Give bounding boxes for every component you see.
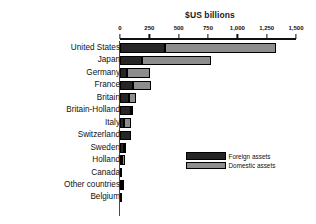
chart-row: Italy xyxy=(0,117,316,129)
category-label: France xyxy=(95,80,120,90)
legend-swatch xyxy=(186,152,226,160)
chart-row: France xyxy=(0,79,316,91)
bar-segment-domestic xyxy=(133,81,151,91)
x-tick-mark xyxy=(266,34,267,39)
x-tick-label: 250 xyxy=(144,25,154,31)
x-tick-mark xyxy=(149,34,150,39)
chart-row: Switzerland xyxy=(0,129,316,141)
legend-label: Foreign assets xyxy=(229,153,271,160)
bar-chart: $US billions 02505007501,0001,2501,500 U… xyxy=(0,0,316,224)
bar-segment-foreign xyxy=(120,131,131,141)
bar-segment-foreign xyxy=(120,106,131,116)
category-label: Canada xyxy=(91,168,120,178)
bar-segment-domestic xyxy=(142,56,211,66)
category-label: Switzerland xyxy=(78,130,120,140)
x-tick-mark xyxy=(295,34,296,39)
stacked-bar xyxy=(120,81,151,91)
stacked-bar xyxy=(120,93,136,103)
category-label: United States xyxy=(71,43,120,53)
category-label: Italy xyxy=(105,118,120,128)
chart-row: United States xyxy=(0,42,316,54)
stacked-bar xyxy=(120,106,133,116)
bar-segment-domestic xyxy=(122,180,124,190)
category-label: Belgium xyxy=(90,192,120,202)
x-tick-label: 750 xyxy=(203,25,213,31)
legend-label: Domestic assets xyxy=(229,162,276,169)
category-label: Japan xyxy=(98,55,120,65)
chart-row: Germany xyxy=(0,67,316,79)
chart-row: Japan xyxy=(0,54,316,66)
x-tick-label: 0 xyxy=(118,25,121,31)
legend-swatch xyxy=(186,162,226,170)
bar-segment-domestic xyxy=(122,155,124,165)
bar-segment-foreign xyxy=(120,81,133,91)
bar-segment-foreign xyxy=(120,43,165,53)
category-label: Holland xyxy=(92,155,120,165)
bar-segment-domestic xyxy=(129,93,135,103)
x-tick-label: 1,250 xyxy=(259,25,274,31)
category-label: Britain xyxy=(97,93,120,103)
x-axis-title: $US billions xyxy=(120,10,300,20)
bar-segment-foreign xyxy=(120,68,127,78)
bar-segment-foreign xyxy=(120,168,122,178)
x-tick-mark xyxy=(237,34,238,39)
bar-segment-foreign xyxy=(120,93,129,103)
bar-segment-foreign xyxy=(120,56,142,66)
x-tick-mark xyxy=(207,34,208,39)
stacked-bar xyxy=(120,143,126,153)
stacked-bar xyxy=(120,43,276,53)
category-label: Other countries xyxy=(64,180,120,190)
category-label: Sweden xyxy=(90,143,120,153)
x-tick-label: 1,000 xyxy=(230,25,245,31)
legend-item: Foreign assets xyxy=(186,152,284,160)
x-tick-mark xyxy=(178,34,179,39)
stacked-bar xyxy=(120,193,122,203)
bar-segment-foreign xyxy=(120,193,122,203)
bar-segment-domestic xyxy=(124,143,126,153)
bar-segment-domestic xyxy=(165,43,276,53)
stacked-bar xyxy=(120,56,211,66)
chart-row: Other countries xyxy=(0,179,316,191)
legend-item: Domestic assets xyxy=(186,162,284,170)
stacked-bar xyxy=(120,168,122,178)
chart-row: Britain-Holland xyxy=(0,104,316,116)
bar-segment-domestic xyxy=(127,68,150,78)
x-tick-label: 500 xyxy=(174,25,184,31)
stacked-bar xyxy=(120,131,131,141)
bar-segment-domestic xyxy=(124,118,130,128)
x-tick-label: 1,500 xyxy=(288,25,303,31)
category-label: Britain-Holland xyxy=(66,105,120,115)
x-axis-tick-labels: 02505007501,0001,2501,500 xyxy=(0,25,316,35)
plot-area: United StatesJapanGermanyFranceBritainBr… xyxy=(0,41,316,216)
chart-row: Belgium xyxy=(0,191,316,203)
stacked-bar xyxy=(120,68,150,78)
chart-legend: Foreign assetsDomestic assets xyxy=(186,152,284,171)
x-tick-mark xyxy=(119,34,120,39)
stacked-bar xyxy=(120,118,131,128)
stacked-bar xyxy=(120,180,124,190)
bar-segment-domestic xyxy=(131,106,133,116)
category-label: Germany xyxy=(86,68,120,78)
stacked-bar xyxy=(120,155,125,165)
chart-row: Britain xyxy=(0,92,316,104)
